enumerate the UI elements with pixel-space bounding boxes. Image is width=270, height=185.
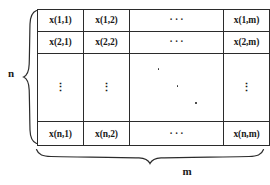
column-count-label: m <box>0 166 270 177</box>
cell-1-m: x(1,m) <box>224 10 270 32</box>
cell-diagonal-ellipsis <box>130 53 224 122</box>
cell-1-ellipsis: · · · <box>130 10 224 32</box>
matrix-figure: n x(1,1) x(1,2) · · · x(1,m) x(2,1) x(2,… <box>0 0 270 185</box>
cell-vdots-m: ⋮ <box>224 53 270 122</box>
vertical-ellipsis-icon: ⋮ <box>101 82 112 93</box>
vertical-ellipsis-icon: ⋮ <box>55 82 66 93</box>
cell-1-2: x(1,2) <box>84 10 130 32</box>
cell-n-2: x(n,2) <box>84 122 130 146</box>
cell-2-1: x(2,1) <box>38 31 84 53</box>
table-row: ⋮ ⋮ ⋮ <box>38 53 270 122</box>
cell-n-1: x(n,1) <box>38 122 84 146</box>
table-row: x(n,1) x(n,2) · · · x(n,m) <box>38 122 270 146</box>
cell-n-m: x(n,m) <box>224 122 270 146</box>
column-count-label-text: m <box>182 165 191 177</box>
left-brace <box>22 8 38 150</box>
cell-2-2: x(2,2) <box>84 31 130 53</box>
matrix-table: x(1,1) x(1,2) · · · x(1,m) x(2,1) x(2,2)… <box>37 9 270 146</box>
diagonal-ellipsis-icon <box>130 54 223 122</box>
vertical-ellipsis-icon: ⋮ <box>241 82 252 93</box>
cell-vdots-2: ⋮ <box>84 53 130 122</box>
table-row: x(1,1) x(1,2) · · · x(1,m) <box>38 10 270 32</box>
cell-2-m: x(2,m) <box>224 31 270 53</box>
cell-vdots-1: ⋮ <box>38 53 84 122</box>
cell-n-ellipsis: · · · <box>130 122 224 146</box>
cell-1-1: x(1,1) <box>38 10 84 32</box>
table-row: x(2,1) x(2,2) · · · x(2,m) <box>38 31 270 53</box>
row-count-label: n <box>8 68 14 79</box>
cell-2-ellipsis: · · · <box>130 31 224 53</box>
